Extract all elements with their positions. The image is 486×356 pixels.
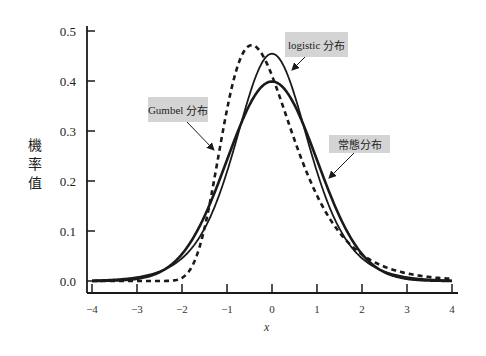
annotation-logistic-latin: logistic	[288, 39, 320, 51]
y-tick-label: 0.4	[60, 74, 77, 89]
x-axis-label: x	[264, 320, 269, 335]
y-tick-label: 0.0	[60, 274, 76, 289]
annotation-gumbel: Gumbel 分布	[148, 97, 208, 122]
x-tick-label: 0	[269, 303, 275, 315]
curve-logistic	[92, 54, 452, 281]
arrow-gumbel	[186, 121, 214, 150]
annotation-normal-cjk: 常態分布	[338, 136, 382, 152]
x-tick-label: −1	[221, 303, 233, 315]
y-tick-label: 0.2	[60, 174, 76, 189]
y-tick-label: 0.5	[60, 24, 76, 39]
curve-normal	[92, 82, 452, 281]
y-axis-label: 機率值	[26, 136, 44, 193]
x-tick-label: −3	[131, 303, 143, 315]
annotation-gumbel-cjk: 分布	[186, 102, 208, 118]
annotation-logistic-cjk: 分布	[323, 37, 345, 53]
y-tick-label: 0.1	[60, 224, 76, 239]
x-tick-label: −4	[86, 303, 98, 315]
x-tick-label: 4	[449, 303, 455, 315]
annotation-normal: 常態分布	[329, 135, 390, 153]
annotation-logistic: logistic 分布	[285, 32, 348, 57]
y-tick-label: 0.3	[60, 124, 76, 139]
annotation-arrows	[186, 52, 360, 178]
x-tick-label: −2	[176, 303, 188, 315]
chart-canvas: 0.00.10.20.30.40.5−4−3−2−101234	[0, 0, 486, 356]
annotation-gumbel-latin: Gumbel	[148, 104, 183, 116]
x-tick-label: 3	[404, 303, 410, 315]
x-tick-label: 2	[359, 303, 365, 315]
curves	[92, 45, 452, 281]
x-tick-label: 1	[314, 303, 320, 315]
